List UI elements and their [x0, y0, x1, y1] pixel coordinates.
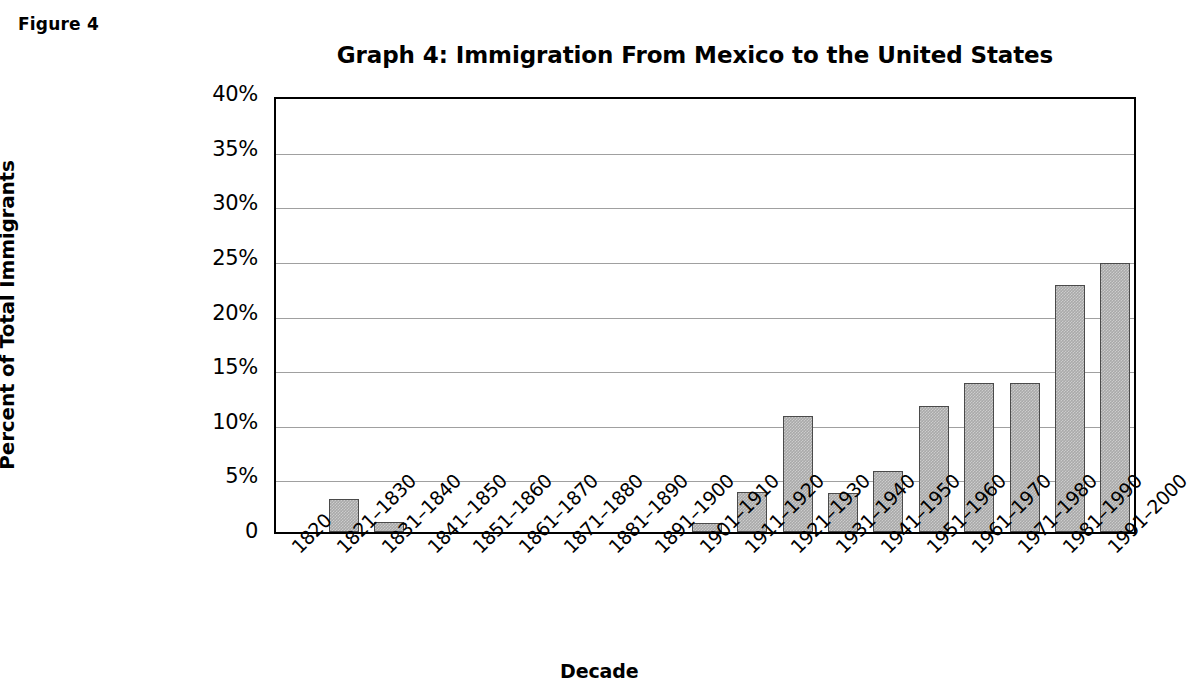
y-tick-label: 0: [245, 519, 258, 543]
y-tick-label: 10%: [212, 410, 258, 434]
gridline: [276, 208, 1134, 209]
gridline: [276, 154, 1134, 155]
y-tick-label: 25%: [212, 246, 258, 270]
y-axis-tick-labels: 40%35%30%25%20%15%10%5%0: [0, 0, 266, 691]
y-tick-label: 20%: [212, 301, 258, 325]
y-tick-label: 40%: [212, 82, 258, 106]
x-axis-tick-labels: 18201821–18301831–18401841–18501851–1860…: [274, 534, 1136, 684]
gridline: [276, 318, 1134, 319]
gridline: [276, 372, 1134, 373]
y-tick-label: 5%: [225, 464, 258, 488]
y-tick-label: 30%: [212, 191, 258, 215]
gridline: [276, 427, 1134, 428]
plot-area: [274, 97, 1136, 534]
y-tick-label: 35%: [212, 137, 258, 161]
x-axis-title: Decade: [560, 660, 639, 682]
y-tick-label: 15%: [212, 355, 258, 379]
gridline: [276, 263, 1134, 264]
chart-title: Graph 4: Immigration From Mexico to the …: [245, 42, 1145, 68]
